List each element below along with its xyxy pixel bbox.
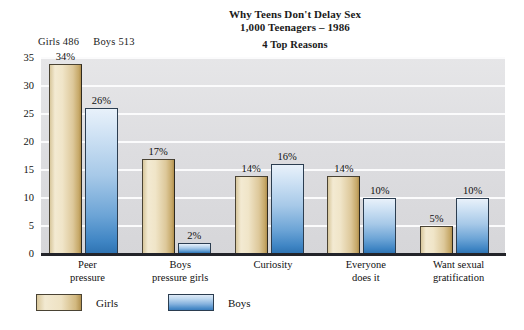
legend-label-girls: Girls — [96, 297, 118, 309]
bar-girls-4 — [327, 176, 360, 254]
y-axis-tick-label: 10 — [0, 193, 34, 203]
y-axis-tick-label: 25 — [0, 109, 34, 119]
bar-value-label: 34% — [43, 51, 88, 62]
bar-value-label: 5% — [414, 213, 459, 224]
category-label-line: gratification — [404, 271, 514, 284]
chart-title-line-2: 1,000 Teenagers – 1986 — [200, 21, 390, 34]
chart-title-line-1: Why Teens Don't Delay Sex — [200, 8, 390, 21]
bar-girls-2 — [142, 159, 175, 254]
y-axis-tick-label: 0 — [0, 249, 34, 259]
bar-boys-4 — [363, 198, 396, 254]
chart-title-line-3: 4 Top Reasons — [200, 39, 390, 52]
chart-figure: Why Teens Don't Delay Sex 1,000 Teenager… — [0, 0, 524, 330]
category-label-line: pressure girls — [125, 271, 235, 284]
bar-girls-5 — [420, 226, 453, 254]
sample-size-header: Girls 486Boys 513 — [38, 36, 135, 47]
bar-girls-1 — [49, 64, 82, 254]
y-axis-tick-label: 20 — [0, 137, 34, 147]
bar-boys-5 — [456, 198, 489, 254]
bar-value-label: 10% — [357, 185, 402, 196]
bar-value-label: 14% — [321, 163, 366, 174]
legend-label-boys: Boys — [228, 297, 251, 309]
sample-size-boys: Boys 513 — [93, 36, 135, 47]
bar-value-label: 14% — [229, 163, 274, 174]
legend-item-girls: Girls — [36, 294, 118, 311]
legend-swatch-boys-icon — [168, 294, 214, 311]
y-axis-tick-label: 15 — [0, 165, 34, 175]
gridline — [41, 57, 505, 59]
y-axis-tick-label: 30 — [0, 81, 34, 91]
bar-girls-3 — [235, 176, 268, 254]
bar-value-label: 17% — [136, 146, 181, 157]
bar-boys-3 — [271, 164, 304, 254]
gridline — [41, 85, 505, 87]
bar-value-label: 16% — [265, 151, 310, 162]
bar-value-label: 2% — [172, 230, 217, 241]
category-label: Want sexualgratification — [404, 258, 514, 284]
sample-size-girls: Girls 486 — [38, 36, 79, 47]
legend-swatch-girls-icon — [36, 294, 82, 311]
y-axis-tick-label: 35 — [0, 53, 34, 63]
legend-item-boys: Boys — [168, 294, 251, 311]
bar-boys-1 — [85, 108, 118, 254]
y-axis-tick-label: 5 — [0, 221, 34, 231]
category-label-line: Want sexual — [404, 258, 514, 271]
bar-value-label: 26% — [79, 95, 124, 106]
x-axis-line — [41, 253, 506, 256]
chart-title: Why Teens Don't Delay Sex 1,000 Teenager… — [200, 8, 390, 52]
bar-value-label: 10% — [450, 185, 495, 196]
